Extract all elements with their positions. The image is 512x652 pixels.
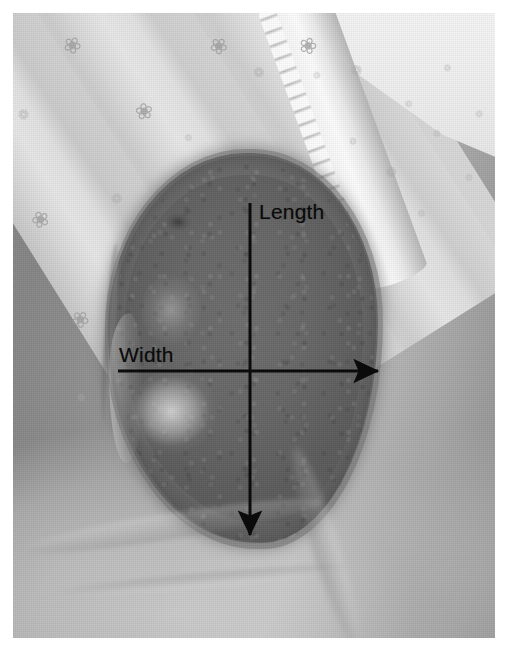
width-label: Width xyxy=(119,343,174,367)
linen-motif-icon: ❁ xyxy=(77,393,85,403)
length-label: Length xyxy=(259,200,324,224)
linen-motif-icon: ❀ xyxy=(134,100,155,124)
clinical-photograph: ❀❀❁❀❁❀❁❀❁❀❁❁ ❁❁❁❁❁❁❁❁❁❁ xyxy=(13,13,495,638)
photo-page: ❀❀❁❀❁❀❁❀❁❀❁❁ ❁❁❁❁❁❁❁❁❁❁ Length Width xyxy=(0,0,512,652)
linen-motif-icon: ❁ xyxy=(349,137,358,147)
linen-motif-icon: ❁ xyxy=(404,98,413,109)
